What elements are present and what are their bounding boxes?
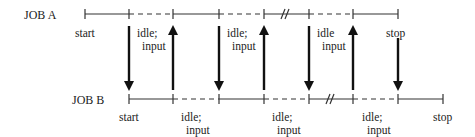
job-b-timeline: [129, 94, 443, 104]
arrow-down-icon: [304, 26, 314, 91]
job-b-input-label-1: input: [186, 124, 210, 136]
arrow-up-icon: [168, 25, 178, 90]
transfer-arrows: [124, 25, 403, 91]
job-a-input-label-3: input: [322, 40, 346, 52]
job-a-start-label: start: [75, 27, 95, 39]
job-b-start-label: start: [119, 111, 139, 123]
timeline-diagram: [0, 0, 475, 137]
arrow-down-icon: [124, 26, 134, 91]
job-a-input-label-1: input: [142, 40, 166, 52]
job-a-idle-label-3: idle: [317, 27, 334, 39]
job-b-idle-label-3: idle;: [362, 111, 382, 123]
job-a-idle-label-1: idle;: [137, 27, 157, 39]
job-b-stop-label: stop: [433, 111, 452, 123]
job-b-input-label-2: input: [277, 124, 301, 136]
arrow-up-icon: [259, 25, 269, 90]
arrow-up-icon: [348, 25, 358, 90]
job-a-idle-label-2: idle;: [227, 27, 247, 39]
job-b-idle-label-1: idle;: [181, 111, 201, 123]
job-b-idle-label-2: idle;: [272, 111, 292, 123]
job-a-stop-label: stop: [386, 27, 405, 39]
arrow-down-icon: [393, 38, 403, 91]
job-b-label: JOB B: [72, 94, 104, 106]
job-a-timeline: [85, 9, 398, 19]
job-b-input-label-3: input: [367, 124, 391, 136]
job-a-label: JOB A: [24, 9, 56, 21]
arrow-down-icon: [214, 26, 224, 91]
job-a-input-label-2: input: [232, 40, 256, 52]
